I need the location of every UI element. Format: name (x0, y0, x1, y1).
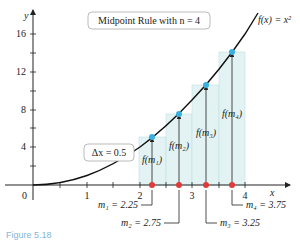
svg-text:0: 0 (22, 190, 27, 201)
bar-label: f(m₂) (169, 140, 190, 152)
svg-text:3: 3 (190, 190, 195, 201)
figure-caption: Figure 5.18 (6, 230, 52, 240)
x-axis-label: x (269, 187, 275, 198)
midpoint-label: m₃ = 3.25 (220, 217, 260, 228)
svg-text:12: 12 (16, 66, 26, 77)
svg-text:2: 2 (138, 190, 143, 201)
svg-text:16: 16 (16, 28, 26, 39)
svg-text:1: 1 (85, 190, 90, 201)
midpoint-rule-figure: Midpoint Rule with n = 4 Δx = 0.5 f(x) =… (0, 0, 300, 241)
bar-label: f(m₁) (142, 154, 163, 166)
bar-label: f(m₃) (196, 127, 217, 139)
svg-text:4: 4 (21, 141, 26, 152)
y-axis-label: y (23, 10, 29, 21)
midpoint-label: m₄ = 3.75 (246, 199, 286, 210)
chart-title: Midpoint Rule with n = 4 (98, 15, 200, 26)
svg-text:8: 8 (21, 104, 26, 115)
midpoint-label: m₁ = 2.25 (98, 199, 138, 210)
bar-label: f(m₄) (222, 108, 243, 120)
chart-svg: Midpoint Rule with n = 4 Δx = 0.5 f(x) =… (0, 0, 300, 241)
delta-label: Δx = 0.5 (92, 147, 127, 158)
function-label: f(x) = x² (258, 14, 292, 26)
midpoint-label: m₂ = 2.75 (121, 217, 161, 228)
